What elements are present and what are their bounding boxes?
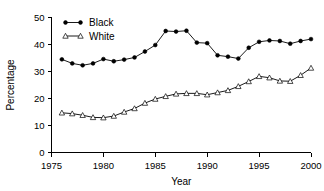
data-point bbox=[132, 106, 137, 111]
x-tick-label: 1975 bbox=[41, 160, 62, 171]
data-point bbox=[164, 29, 168, 33]
data-point bbox=[91, 62, 95, 66]
data-point bbox=[133, 56, 137, 60]
data-point bbox=[309, 37, 313, 41]
line-chart: 01020304050197519801985199019952000YearP… bbox=[0, 0, 324, 191]
data-point bbox=[278, 39, 282, 43]
data-point bbox=[216, 53, 220, 57]
data-point bbox=[236, 84, 241, 89]
legend-marker-black bbox=[64, 21, 68, 25]
y-tick-label: 40 bbox=[34, 39, 45, 50]
data-point bbox=[81, 63, 85, 67]
data-point bbox=[256, 74, 261, 79]
data-point bbox=[112, 59, 116, 63]
data-point bbox=[298, 73, 303, 78]
data-point bbox=[246, 79, 251, 84]
legend: BlackWhite bbox=[63, 17, 115, 41]
y-tick-label: 50 bbox=[34, 12, 45, 23]
y-axis-title: Percentage bbox=[5, 59, 16, 111]
x-tick-label: 1980 bbox=[93, 160, 114, 171]
x-tick-label: 1995 bbox=[249, 160, 270, 171]
series-white bbox=[59, 65, 314, 120]
x-axis-title: Year bbox=[171, 176, 192, 187]
data-point bbox=[185, 29, 189, 33]
y-tick-label: 30 bbox=[34, 66, 45, 77]
y-tick-label: 0 bbox=[39, 147, 44, 158]
data-point bbox=[299, 39, 303, 43]
data-point bbox=[225, 88, 230, 93]
data-point bbox=[288, 42, 292, 46]
y-tick-label: 20 bbox=[34, 93, 45, 104]
data-point bbox=[247, 46, 251, 50]
x-tick-label: 2000 bbox=[300, 160, 321, 171]
data-point bbox=[268, 39, 272, 43]
data-point bbox=[153, 43, 157, 47]
data-point bbox=[60, 57, 64, 61]
data-point bbox=[174, 30, 178, 34]
data-point bbox=[122, 58, 126, 62]
data-point bbox=[143, 50, 147, 54]
data-point bbox=[111, 113, 116, 118]
data-point bbox=[226, 55, 230, 59]
data-point bbox=[142, 100, 147, 105]
data-point bbox=[257, 40, 261, 44]
legend-marker-black bbox=[79, 21, 83, 25]
chart-container: 01020304050197519801985199019952000YearP… bbox=[0, 0, 324, 191]
x-tick-label: 1990 bbox=[197, 160, 218, 171]
data-point bbox=[205, 41, 209, 45]
data-point bbox=[308, 65, 313, 70]
data-point bbox=[236, 57, 240, 61]
data-point bbox=[70, 62, 74, 66]
x-tick-label: 1985 bbox=[145, 160, 166, 171]
data-point bbox=[102, 57, 106, 61]
y-tick-label: 10 bbox=[34, 120, 45, 131]
data-point bbox=[195, 41, 199, 45]
legend-label-white: White bbox=[89, 31, 115, 42]
legend-label-black: Black bbox=[89, 17, 114, 28]
